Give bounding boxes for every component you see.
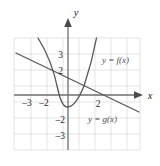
y-axis-arrowhead xyxy=(64,18,72,27)
x-tick-label-2: 2 xyxy=(96,99,101,109)
line-label: y = g(x) xyxy=(87,114,117,124)
y-tick-label-neg2: –2 xyxy=(55,115,66,125)
x-axis-arrowhead xyxy=(134,91,143,99)
y-tick-label-3: 3 xyxy=(58,50,63,60)
x-tick-label-neg3: –3 xyxy=(21,98,32,108)
x-tick-label-neg2: –2 xyxy=(38,98,49,108)
y-tick-label-neg3: –3 xyxy=(55,131,66,141)
y-axis-label: y xyxy=(73,7,79,18)
x-axis-label: x xyxy=(147,90,153,101)
coordinate-plane-svg: –3 –2 2 3 2 –2 –3 y x y = f(x) y = g(x) xyxy=(0,0,160,166)
y-tick-label-2: 2 xyxy=(58,66,63,76)
graph-figure: –3 –2 2 3 2 –2 –3 y x y = f(x) y = g(x) xyxy=(0,0,160,166)
parabola-label: y = f(x) xyxy=(101,55,129,65)
